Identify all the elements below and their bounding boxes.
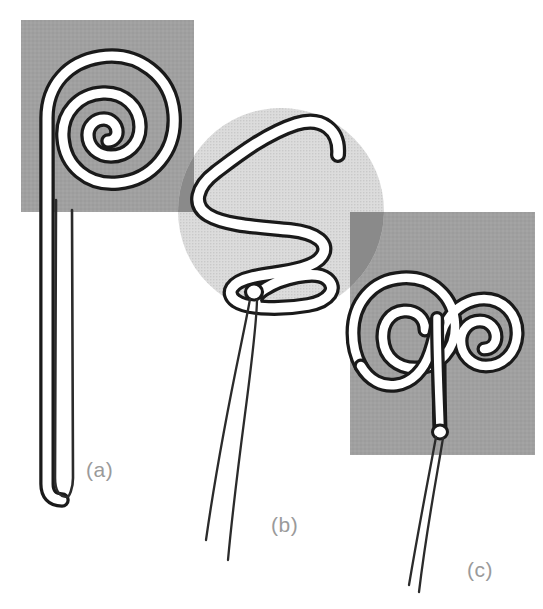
panel-label-a: (a) xyxy=(86,458,113,482)
figure-container: (a) (b) (c) xyxy=(0,0,543,609)
backdrop-layer xyxy=(21,20,535,455)
panel-b-basal-knot xyxy=(246,284,263,300)
panel-c-basal-knot xyxy=(433,425,448,439)
panel-c-stem-core xyxy=(437,318,440,428)
panel-label-b: (b) xyxy=(271,513,298,537)
panel-a-tail-left-thread xyxy=(55,200,67,497)
panel-a-tail-right-thread xyxy=(67,210,73,497)
panel-label-c: (c) xyxy=(467,558,493,582)
